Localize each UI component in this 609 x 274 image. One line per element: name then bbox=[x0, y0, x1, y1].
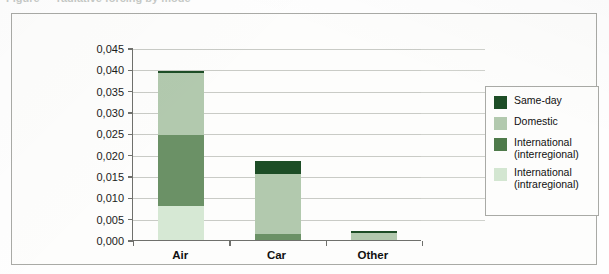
legend-label-line1: International bbox=[514, 166, 572, 178]
gridline-extension bbox=[421, 49, 485, 50]
legend-label-line1: Domestic bbox=[514, 115, 558, 127]
y-tick-label: 0,045 bbox=[96, 43, 124, 55]
legend-label-line2: (intraregional) bbox=[514, 179, 579, 191]
figure-root: Figure — radiative forcing by mode Radia… bbox=[0, 0, 609, 274]
y-tick-mark bbox=[128, 198, 133, 199]
legend-label: Same-day bbox=[514, 95, 562, 107]
bar-other[interactable] bbox=[351, 48, 397, 240]
cropped-caption-strip: Figure — radiative forcing by mode bbox=[0, 0, 609, 13]
chart-legend: Same-dayDomesticInternational(interregio… bbox=[485, 86, 599, 216]
y-tick-mark bbox=[128, 219, 133, 220]
y-tick-label: 0,005 bbox=[96, 214, 124, 226]
y-tick-label: 0,015 bbox=[96, 171, 124, 183]
y-tick-mark bbox=[128, 134, 133, 135]
legend-label: Domestic bbox=[514, 116, 558, 128]
x-tick-mark bbox=[229, 241, 230, 246]
bar-segment[interactable] bbox=[158, 206, 204, 240]
y-tick-label: 0,030 bbox=[96, 107, 124, 119]
gridline-extension bbox=[421, 113, 485, 114]
legend-swatch bbox=[494, 96, 507, 109]
bar-segment[interactable] bbox=[158, 73, 204, 136]
legend-label-line1: Same-day bbox=[514, 94, 562, 106]
gridline-extension bbox=[421, 92, 485, 93]
bar-segment[interactable] bbox=[158, 71, 204, 73]
y-tick-label: 0,010 bbox=[96, 192, 124, 204]
legend-label: International(intraregional) bbox=[514, 167, 579, 190]
x-tick-mark bbox=[422, 241, 423, 246]
legend-item[interactable]: Domestic bbox=[494, 116, 592, 130]
gridline-extension bbox=[421, 220, 485, 221]
caption-text: Figure — radiative forcing by mode bbox=[6, 0, 191, 4]
legend-item[interactable]: International(intraregional) bbox=[494, 167, 592, 190]
legend-item[interactable]: International(interregional) bbox=[494, 137, 592, 160]
y-tick-label: 0,000 bbox=[96, 235, 124, 247]
bar-segment[interactable] bbox=[255, 234, 301, 240]
bar-segment[interactable] bbox=[255, 161, 301, 174]
y-tick-label: 0,035 bbox=[96, 86, 124, 98]
bar-segment[interactable] bbox=[351, 231, 397, 233]
legend-swatch bbox=[494, 168, 507, 181]
x-category-label-car: Car bbox=[267, 249, 286, 261]
figure-frame: Radiative forcing (W/m²) 0,0450,0400,035… bbox=[11, 13, 597, 265]
bar-segment[interactable] bbox=[255, 174, 301, 235]
y-tick-mark bbox=[128, 91, 133, 92]
legend-label: International(interregional) bbox=[514, 137, 579, 160]
y-axis-tick-labels: 0,0450,0400,0350,0300,0250,0200,0150,010… bbox=[76, 49, 124, 241]
y-tick-mark bbox=[128, 48, 133, 49]
gridline-extension bbox=[421, 177, 485, 178]
y-tick-mark bbox=[128, 112, 133, 113]
x-category-label-air: Air bbox=[172, 249, 188, 261]
legend-label-line1: International bbox=[514, 136, 572, 148]
y-tick-mark bbox=[128, 70, 133, 71]
gridline-extension bbox=[421, 134, 485, 135]
y-tick-label: 0,040 bbox=[96, 64, 124, 76]
gridline-extension bbox=[421, 198, 485, 199]
bar-segment[interactable] bbox=[158, 135, 204, 205]
y-tick-mark bbox=[128, 155, 133, 156]
plot-area bbox=[132, 49, 421, 241]
bar-air[interactable] bbox=[158, 48, 204, 240]
bar-segment[interactable] bbox=[351, 233, 397, 240]
x-tick-mark bbox=[326, 241, 327, 246]
x-tick-mark bbox=[133, 241, 134, 246]
legend-swatch bbox=[494, 117, 507, 130]
y-tick-mark bbox=[128, 176, 133, 177]
x-category-label-other: Other bbox=[357, 249, 388, 261]
y-tick-label: 0,025 bbox=[96, 128, 124, 140]
legend-swatch bbox=[494, 138, 507, 151]
y-tick-label: 0,020 bbox=[96, 150, 124, 162]
gridline-extension bbox=[421, 156, 485, 157]
legend-item[interactable]: Same-day bbox=[494, 95, 592, 109]
legend-label-line2: (interregional) bbox=[514, 149, 579, 161]
bar-car[interactable] bbox=[255, 48, 301, 240]
gridline-extension bbox=[421, 70, 485, 71]
